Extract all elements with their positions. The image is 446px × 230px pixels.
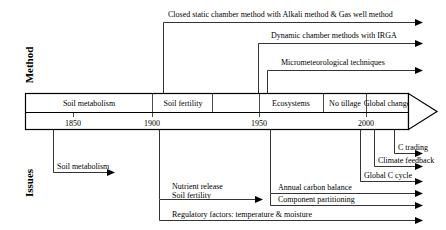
method-axis-label-group: Method <box>23 47 35 84</box>
issue-flow-7-label: Component partitioning <box>278 195 355 204</box>
method-flow-3-arrowhead-icon <box>415 67 423 74</box>
timeline-cell-label-0: Soil metabolism <box>63 99 116 108</box>
method-flow-2-arrowhead-icon <box>415 40 423 47</box>
timeline-diagram-canvas: Method Closed static chamber method with… <box>0 0 446 230</box>
issue-flow-6-label: Annual carbon balance <box>278 183 352 192</box>
method-flow-micrometeorological: Micrometeorological techniques <box>268 58 424 93</box>
timeline-cell-label-1: Soil fertility <box>164 99 203 108</box>
timeline-year-label-1950: 1950 <box>251 119 267 128</box>
issue-flow-component-partitioning: Component partitioning <box>271 194 424 209</box>
timeline-year-label-1850: 1850 <box>65 119 81 128</box>
issue-flow-soil-metabolism: Soil metabolism <box>54 130 116 176</box>
method-flow-3-label: Micrometeorological techniques <box>281 58 385 67</box>
issue-flow-6-arrowhead-icon <box>415 190 423 197</box>
issue-flow-1-label: Soil metabolism <box>57 162 110 171</box>
timeline-bar: Soil metabolism Soil fertility Ecosystem… <box>26 94 438 130</box>
method-flow-2-path <box>259 44 417 94</box>
issue-flow-5-label-nutrient-release: Nutrient release <box>172 182 223 191</box>
timeline-year-label-1900: 1900 <box>144 119 160 128</box>
issue-flow-4-label: Global C cycle <box>364 171 412 180</box>
method-flow-1-arrowhead-icon <box>415 19 423 26</box>
timeline-diagram-root: Method Closed static chamber method with… <box>0 0 446 230</box>
issues-axis-label: Issues <box>23 168 35 197</box>
method-flow-1-label: Closed static chamber method with Alkali… <box>168 10 393 19</box>
issue-flow-7-arrowhead-icon <box>415 202 423 209</box>
issue-flow-5-arrowhead-icon <box>255 196 263 203</box>
timeline-cell-label-5: Global change <box>364 99 411 108</box>
method-flow-3-path <box>268 71 417 94</box>
timeline-cell-label-4: No tillage <box>329 99 361 108</box>
method-axis-label: Method <box>23 47 35 84</box>
method-flow-closed-static-chamber: Closed static chamber method with Alkali… <box>164 10 424 93</box>
issue-flow-4-arrowhead-icon <box>415 178 423 185</box>
issue-flow-5-label-soil-fertility: Soil fertility <box>172 191 211 200</box>
method-flow-2-label: Dynamic chamber methods with IRGA <box>271 31 397 40</box>
issue-flow-3-label: Climate feedback <box>378 156 434 165</box>
issues-axis-label-group: Issues <box>23 168 35 197</box>
issue-flow-8-label: Regulatory factors: temperature & moistu… <box>172 210 312 219</box>
timeline-cell-label-3: Ecosystems <box>272 99 310 108</box>
issue-flow-2-label: C trading <box>398 143 428 152</box>
timeline-arrowhead-icon <box>409 94 438 130</box>
timeline-year-label-2000: 2000 <box>358 119 374 128</box>
issue-flow-8-arrowhead-icon <box>415 217 423 224</box>
issue-flow-nutrient-release: Nutrient release Soil fertility <box>160 130 264 203</box>
issue-flow-c-trading: C trading <box>395 130 429 157</box>
